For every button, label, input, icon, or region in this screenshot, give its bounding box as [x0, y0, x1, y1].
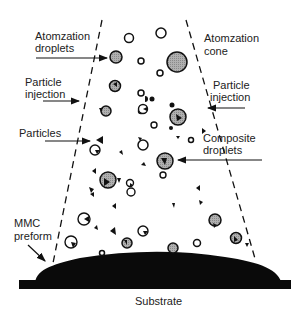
label-particles: Particles	[19, 127, 62, 139]
label-substrate: Substrate	[135, 295, 182, 307]
label-atomization-cone-line2: cone	[204, 45, 228, 57]
label-mmc-preform-line1: MMC	[14, 217, 40, 229]
label-particle-injection-left-line1: Particle	[25, 76, 62, 88]
label-particle-injection-right-line1: Particle	[213, 79, 250, 91]
ceramic-particles	[89, 96, 249, 247]
mmc-preform-arrow	[28, 245, 45, 261]
substrate-plate	[19, 280, 291, 289]
spray-forming-diagram: Atomzation droplets Atomzation cone Part…	[0, 0, 305, 321]
label-composite-droplets-line1: Composite	[203, 132, 256, 144]
label-atomization-cone-line1: Atomzation	[204, 32, 259, 44]
atomization-cone-left-edge	[52, 20, 102, 268]
label-particle-injection-left-line2: injection	[25, 88, 65, 100]
label-atomization-droplets-line2: droplets	[35, 42, 75, 54]
label-mmc-preform-line2: preform	[14, 230, 52, 242]
label-atomization-droplets-line1: Atomzation	[35, 30, 90, 42]
label-composite-droplets-line2: droplets	[203, 144, 243, 156]
label-particle-injection-right-line2: injection	[210, 91, 250, 103]
